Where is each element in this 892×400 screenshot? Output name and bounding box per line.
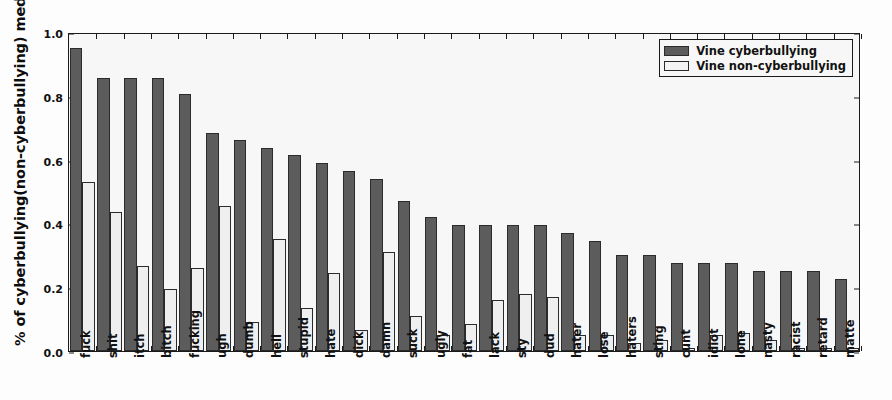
legend-label-cyberbullying: Vine cyberbullying <box>696 44 817 58</box>
x-axis-tick-label: damn <box>379 322 393 358</box>
x-axis-tick-label: fuck <box>79 330 93 358</box>
x-axis-tick-label: fat <box>461 340 475 358</box>
bar-cyberbullying <box>70 48 82 351</box>
y-axis-tick-label: 1.0 <box>44 28 70 41</box>
x-axis-tick-label: suck <box>406 329 420 359</box>
bar-cyberbullying <box>97 78 109 351</box>
bar-non-cyberbullying <box>219 206 231 351</box>
bar-cyberbullying <box>534 225 546 351</box>
x-axis-tick-label: hate <box>324 329 338 358</box>
x-axis-tick-label: matte <box>843 319 857 358</box>
bar-cyberbullying <box>261 148 273 351</box>
bar-cyberbullying <box>507 225 519 351</box>
bar-cyberbullying <box>452 225 464 351</box>
chart-legend: Vine cyberbullying Vine non-cyberbullyin… <box>659 39 853 77</box>
plot-area: 0.00.20.40.60.81.0 Vine cyberbullying Vi… <box>68 33 860 352</box>
x-axis-tick-label: ugly <box>434 330 448 358</box>
bar-cyberbullying <box>152 78 164 351</box>
y-axis-title-container: % of cyberbullying(non-cyberbullying) me… <box>0 0 34 400</box>
x-axis-tick-label: retard <box>816 317 830 358</box>
bar-cyberbullying <box>124 78 136 351</box>
x-axis-tick-label: dick <box>352 331 366 358</box>
y-axis-tick-label: 0.4 <box>44 219 70 232</box>
bar-non-cyberbullying <box>82 182 94 351</box>
x-axis-tick-label: idiot <box>707 328 721 358</box>
x-axis-tick-labels: fuckshititchbitchfuckingughdumbhellstupi… <box>68 356 860 400</box>
bar-cyberbullying <box>316 163 328 351</box>
x-axis-tick-label: lose <box>597 332 611 359</box>
x-axis-tick-label: hell <box>270 334 284 358</box>
x-axis-tick-label: dumb <box>242 321 256 358</box>
y-axis-tick-label: 0.8 <box>44 91 70 104</box>
y-axis-tick-label: 0.0 <box>44 347 70 360</box>
x-axis-tick-label: haters <box>625 316 639 358</box>
y-axis-title: % of cyberbullying(non-cyberbullying) me… <box>12 26 28 346</box>
y-axis-tick-label: 0.2 <box>44 283 70 296</box>
x-axis-tick-label: sting <box>652 325 666 358</box>
x-axis-tick-label: racist <box>789 321 803 358</box>
x-axis-tick-label: shit <box>106 334 120 358</box>
bar-cyberbullying <box>343 171 355 351</box>
y-axis-tick-mark <box>69 353 74 354</box>
bar-cyberbullying <box>206 133 218 352</box>
bar-chart-figure: % of cyberbullying(non-cyberbullying) me… <box>0 0 892 400</box>
legend-swatch-non-cyberbullying <box>664 61 689 71</box>
bar-series-container <box>69 34 859 351</box>
legend-item-cyberbullying: Vine cyberbullying <box>664 43 846 58</box>
x-axis-tick-label: stupid <box>297 317 311 358</box>
x-axis-tick-label: ugh <box>215 333 229 358</box>
x-axis-tick-label: lone <box>734 330 748 358</box>
x-axis-tick-mark <box>861 34 862 39</box>
x-axis-tick-label: bitch <box>160 325 174 358</box>
bar-cyberbullying <box>234 140 246 351</box>
x-axis-tick-label: sty <box>515 338 529 358</box>
x-axis-tick-label: dud <box>543 333 557 358</box>
x-axis-tick-label: nasty <box>761 322 775 358</box>
x-axis-tick-label: itch <box>133 334 147 358</box>
x-axis-tick-label: hater <box>570 323 584 358</box>
x-axis-tick-label: fucking <box>188 310 202 358</box>
legend-item-non-cyberbullying: Vine non-cyberbullying <box>664 58 846 73</box>
bar-non-cyberbullying <box>110 212 122 351</box>
x-axis-tick-label: lack <box>488 332 502 358</box>
x-axis-tick-label: cunt <box>679 329 693 358</box>
legend-label-non-cyberbullying: Vine non-cyberbullying <box>696 59 846 73</box>
x-axis-tick-mark <box>861 346 862 351</box>
y-axis-tick-label: 0.6 <box>44 155 70 168</box>
legend-swatch-cyberbullying <box>664 46 689 56</box>
